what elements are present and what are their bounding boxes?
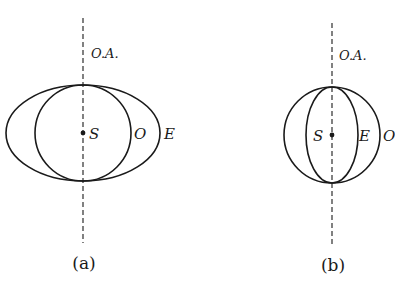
birefringence-wavefront-diagram: S O E O.A. (a) S E O O.A. (b) (0, 0, 395, 284)
source-label-a: S (89, 125, 99, 143)
extraordinary-label-b: E (358, 127, 370, 145)
extraordinary-label-a: E (163, 125, 175, 143)
panel-b: S E O O.A. (b) (284, 23, 395, 275)
ordinary-label-a: O (134, 125, 146, 143)
source-point-b (330, 133, 335, 138)
caption-b: (b) (321, 255, 345, 275)
caption-a: (a) (72, 253, 95, 273)
ordinary-label-b: O (383, 127, 395, 145)
optic-axis-label-b: O.A. (339, 48, 367, 63)
panel-a: S O E O.A. (a) (6, 18, 175, 273)
source-point-a (81, 131, 86, 136)
optic-axis-label-a: O.A. (91, 46, 119, 61)
source-label-b: S (313, 127, 323, 145)
